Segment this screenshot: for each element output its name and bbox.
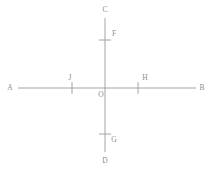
label-O: O — [98, 90, 104, 99]
label-B: B — [199, 83, 204, 92]
label-A: A — [7, 83, 13, 92]
label-C: C — [102, 5, 107, 14]
geometry-figure-svg: CFAJOHBGD — [0, 0, 212, 174]
point-labels-group: CFAJOHBGD — [7, 5, 204, 165]
label-J: J — [69, 73, 72, 82]
axis-lines-group — [18, 18, 196, 152]
label-G: G — [111, 135, 117, 144]
label-F: F — [112, 29, 116, 38]
label-H: H — [142, 73, 148, 82]
geometry-figure-canvas: CFAJOHBGD — [0, 0, 212, 174]
label-D: D — [102, 156, 108, 165]
